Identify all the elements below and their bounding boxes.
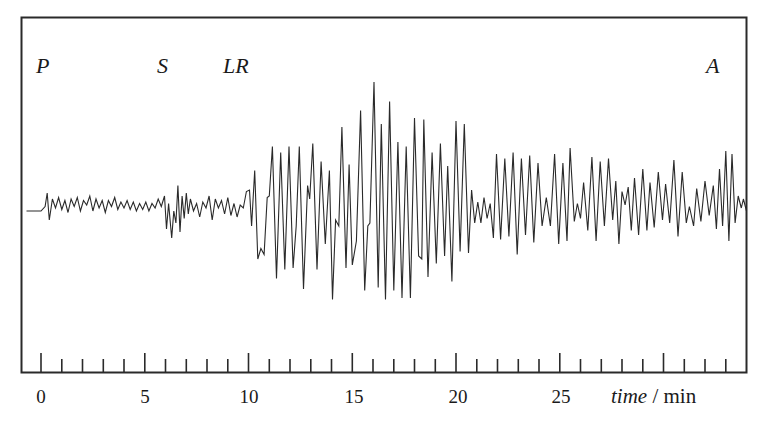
x-tick-label-15: 15: [345, 387, 364, 406]
x-tick-label-25: 25: [552, 387, 571, 406]
x-axis-title: time / min: [611, 386, 696, 407]
x-tick-label-10: 10: [240, 387, 259, 406]
seismogram-trace: [27, 82, 747, 300]
s-wave-label: S: [157, 55, 168, 77]
a-marker-label: A: [706, 55, 719, 77]
x-axis-ticks: [41, 353, 726, 372]
x-axis-unit: / min: [647, 384, 696, 408]
plot-frame: [22, 18, 747, 373]
x-tick-label-5: 5: [140, 387, 150, 406]
x-tick-label-0: 0: [36, 387, 46, 406]
p-wave-label: P: [36, 55, 49, 77]
x-axis-quantity: time: [611, 384, 647, 408]
lr-wave-label: LR: [223, 55, 249, 77]
seismogram-chart: [0, 0, 764, 431]
x-tick-label-20: 20: [449, 387, 468, 406]
